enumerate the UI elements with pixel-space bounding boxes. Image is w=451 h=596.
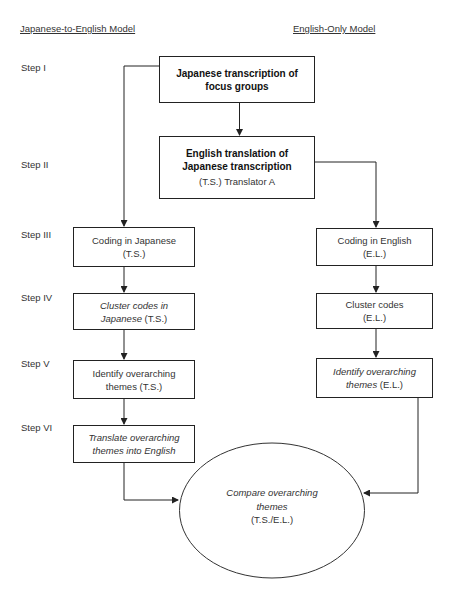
node-text: themes: [192, 500, 352, 514]
node-text: focus groups: [205, 80, 268, 93]
node-text: (E.L.): [363, 247, 386, 260]
node-cluster-japanese: Cluster codes in Japanese (T.S.): [73, 293, 195, 330]
node-text: (T.S./E.L.): [192, 513, 352, 527]
node-text: Japanese: [101, 313, 142, 324]
node-text: Translate overarching: [88, 431, 179, 444]
node-text: (T.S.) Translator A: [199, 175, 275, 188]
node-text: Japanese transcription: [182, 160, 291, 173]
node-text: (T.S.): [123, 247, 146, 260]
node-text: (E.L.): [377, 379, 403, 390]
node-japanese-transcription: Japanese transcription of focus groups: [159, 56, 315, 103]
node-cluster-english: Cluster codes (E.L.): [316, 293, 433, 329]
node-identify-japanese: Identify overarching themes (T.S.): [73, 360, 195, 399]
node-identify-english: Identify overarching themes (E.L.): [316, 358, 433, 398]
node-text: themes: [346, 379, 377, 390]
node-text: Japanese transcription of: [176, 67, 298, 80]
node-text: Identify overarching: [333, 365, 416, 378]
node-text: (E.L.): [363, 311, 386, 324]
node-coding-english: Coding in English (E.L.): [316, 228, 433, 266]
node-text: themes (T.S.): [106, 380, 163, 393]
node-text: Cluster codes in: [100, 299, 168, 312]
node-text: themes into English: [93, 444, 176, 457]
node-compare-themes: Compare overarching themes (T.S./E.L.): [192, 486, 352, 527]
node-text: Coding in Japanese: [92, 234, 176, 247]
node-text: Coding in English: [338, 234, 412, 247]
node-text: English translation of: [186, 147, 288, 160]
node-text: Compare overarching: [192, 486, 352, 500]
node-coding-japanese: Coding in Japanese (T.S.): [73, 227, 195, 267]
node-text: Cluster codes: [345, 298, 403, 311]
node-text: (T.S.): [142, 313, 167, 324]
node-translate-themes: Translate overarching themes into Englis…: [73, 425, 195, 463]
node-text: Identify overarching: [93, 367, 176, 380]
node-english-translation: English translation of Japanese transcri…: [159, 136, 315, 199]
